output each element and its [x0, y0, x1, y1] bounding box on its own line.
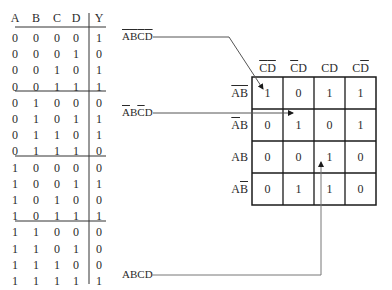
diagram-lines — [0, 0, 392, 290]
arrow-minterm-0 — [153, 37, 263, 89]
arrow-minterm-15 — [152, 162, 321, 275]
